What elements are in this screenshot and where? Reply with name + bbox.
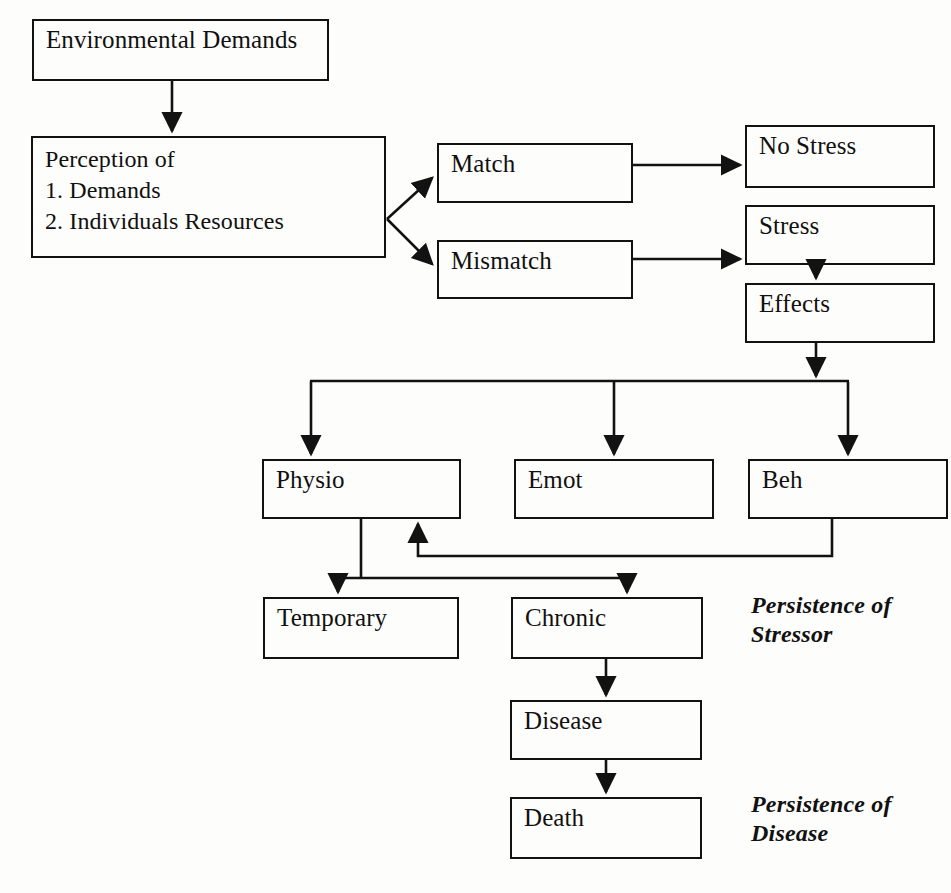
node-label-perception: Perception of 1. Demands 2. Individuals … — [33, 138, 284, 238]
node-stress[interactable]: Stress — [745, 205, 935, 265]
annotation-persistence-of-stressor: Persistence of Stressor — [751, 591, 892, 650]
node-mismatch[interactable]: Mismatch — [437, 240, 633, 299]
node-label-emot: Emot — [516, 461, 583, 495]
edge-beh-feedback-to-physio — [418, 519, 832, 556]
node-label-death: Death — [512, 799, 584, 833]
node-label-beh: Beh — [750, 461, 803, 495]
edge-perception-to-mismatch — [387, 219, 432, 264]
node-label-effects: Effects — [747, 285, 830, 319]
node-physio[interactable]: Physio — [262, 459, 461, 519]
node-label-physio: Physio — [264, 461, 345, 495]
node-chronic[interactable]: Chronic — [511, 597, 703, 659]
node-beh[interactable]: Beh — [748, 459, 948, 519]
node-emot[interactable]: Emot — [514, 459, 714, 519]
node-label-chronic: Chronic — [513, 599, 606, 633]
node-label-temporary: Temporary — [265, 599, 387, 633]
node-label-no-stress: No Stress — [747, 127, 856, 161]
node-disease[interactable]: Disease — [510, 700, 702, 760]
node-temporary[interactable]: Temporary — [263, 597, 459, 659]
node-death[interactable]: Death — [510, 797, 702, 859]
node-label-disease: Disease — [512, 702, 602, 736]
node-no-stress[interactable]: No Stress — [745, 125, 935, 188]
node-perception[interactable]: Perception of 1. Demands 2. Individuals … — [31, 136, 386, 258]
node-environmental-demands[interactable]: Environmental Demands — [32, 19, 329, 81]
node-label-environmental-demands: Environmental Demands — [34, 21, 297, 55]
node-label-match: Match — [439, 145, 515, 179]
flowchart-diagram: Environmental Demands Perception of 1. D… — [0, 0, 951, 893]
annotation-persistence-of-disease: Persistence of Disease — [751, 790, 892, 849]
node-match[interactable]: Match — [437, 143, 633, 203]
node-label-stress: Stress — [747, 207, 819, 241]
edge-perception-to-match — [387, 178, 432, 219]
node-effects[interactable]: Effects — [745, 283, 935, 343]
node-label-mismatch: Mismatch — [439, 242, 552, 276]
